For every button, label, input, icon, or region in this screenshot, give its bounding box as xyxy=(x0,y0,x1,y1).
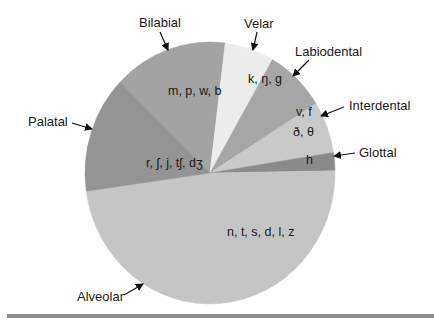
arrow-bilabial xyxy=(160,32,168,50)
label-glottal: Glottal xyxy=(359,145,397,160)
label-alveolar: Alveolar xyxy=(77,289,125,304)
arrow-glottal xyxy=(334,153,355,156)
phonemes-velar: k, ŋ, g xyxy=(248,72,282,86)
arrow-velar xyxy=(253,32,257,50)
phonemes-alveolar: n, t, s, d, l, z xyxy=(227,225,294,239)
arrow-palatal xyxy=(72,123,92,129)
bottom-rule xyxy=(7,314,434,318)
phonemes-palatal: r, ʃ, j, tʃ, dʒ xyxy=(146,156,203,170)
arrow-interdental xyxy=(321,107,344,116)
label-interdental: Interdental xyxy=(349,98,411,113)
phonemes-bilabial: m, p, w, b xyxy=(168,84,222,98)
label-labiodental: Labiodental xyxy=(295,44,362,59)
pie-chart: m, p, w, b k, ŋ, g v, f ð, θ h n, t, s, … xyxy=(0,0,434,321)
phonemes-interdental: ð, θ xyxy=(293,125,314,139)
arrow-alveolar xyxy=(124,284,143,295)
pie-slices xyxy=(85,42,335,304)
label-palatal: Palatal xyxy=(28,114,68,129)
label-bilabial: Bilabial xyxy=(139,15,181,30)
label-velar: Velar xyxy=(244,16,274,31)
phonemes-labiodental: v, f xyxy=(296,105,312,119)
arrow-labiodental xyxy=(293,60,309,76)
phonemes-glottal: h xyxy=(306,153,313,167)
slice-alveolar xyxy=(86,171,335,304)
